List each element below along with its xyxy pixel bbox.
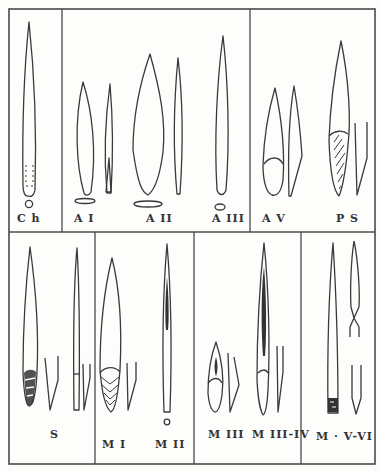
point-m3-base-line-icon <box>208 379 222 384</box>
point-m3-fill-icon <box>215 357 218 377</box>
profile-a2-icon <box>174 58 182 194</box>
leaf-point-a1-icon <box>77 82 94 195</box>
profile-s-icon <box>45 356 58 410</box>
panel-s: S <box>23 247 90 441</box>
label-m3: M III <box>208 428 244 441</box>
label-a2: A II <box>145 212 173 225</box>
label-a3: A III <box>211 212 245 225</box>
panel-m34: M III M III-IV <box>208 243 310 441</box>
label-m1: M I <box>102 438 126 451</box>
cross-section-a2-icon <box>134 201 162 207</box>
profile-s2-icon <box>83 364 90 410</box>
panel-av-ps: A V P S <box>261 41 367 225</box>
label-a1: A I <box>73 212 95 225</box>
label-av: A V <box>261 212 286 225</box>
notched-point-m6-icon <box>350 241 359 337</box>
point-ch-icon <box>23 22 36 196</box>
profile-av-icon <box>289 86 302 196</box>
profile-a1-fill-icon <box>106 158 111 192</box>
cross-section-a3-icon <box>215 204 225 210</box>
needle-m34-fill-icon <box>262 267 266 356</box>
panel-m12: M I M II <box>100 244 185 451</box>
point-m3-icon <box>208 342 223 412</box>
long-point-m5-base-fill-icon <box>328 398 338 412</box>
cross-section-circle-icon <box>25 200 32 207</box>
label-ch: C h <box>17 212 41 225</box>
needle-m2-fill-icon <box>165 277 168 330</box>
needle-m34-base-line-icon <box>258 370 268 373</box>
label-ps: P S <box>336 212 359 225</box>
panel-a: A I A II A III <box>73 36 245 225</box>
cross-section-m2-icon <box>164 419 170 425</box>
retouch-marks-icon <box>25 166 34 186</box>
label-s: S <box>50 428 59 441</box>
typology-plate: C h A I A II A III A V P S <box>0 0 380 472</box>
point-m1-icon <box>100 258 121 412</box>
outer-border <box>9 9 375 464</box>
cross-section-a1-icon <box>75 199 95 204</box>
label-m56: M · V-VI <box>316 430 373 443</box>
point-av-base-line-icon <box>264 158 283 164</box>
grid-frame <box>9 9 375 464</box>
needle-s-icon <box>74 248 80 410</box>
label-m34: M III-IV <box>252 428 310 441</box>
needle-point-a3-icon <box>216 36 228 195</box>
profile-m3-icon <box>228 353 239 412</box>
profile-ps-icon <box>355 122 367 195</box>
long-point-m5-icon <box>328 243 338 413</box>
profile-m34-icon <box>277 346 283 412</box>
leaf-point-a2-icon <box>133 54 164 195</box>
profile-m6-icon <box>352 365 361 414</box>
point-m1-hatch-line-icon <box>100 368 120 373</box>
panel-m56: M · V-VI <box>316 241 373 443</box>
label-m2: M II <box>155 438 185 451</box>
point-av-icon <box>263 88 284 195</box>
panel-ch: C h <box>17 22 41 225</box>
profile-m1-icon <box>127 362 136 410</box>
profile-a1-icon <box>105 84 112 193</box>
point-ps-icon <box>329 41 349 196</box>
